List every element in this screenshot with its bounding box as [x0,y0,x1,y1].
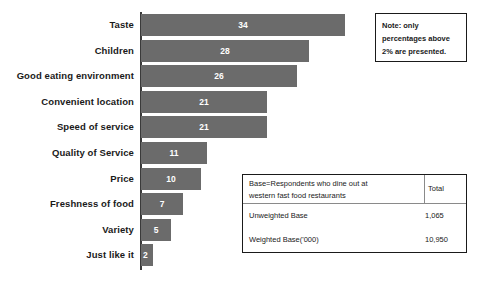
base-table-column-divider [424,175,425,203]
base-table-row-value: 10,950 [425,235,448,244]
category-label: Quality of Service [0,141,134,165]
bar-value-label: 21 [141,116,267,138]
bar-value-label: 21 [141,91,267,113]
category-label: Children [0,39,134,63]
bar-value-label: 28 [141,40,309,62]
category-label: Freshness of food [0,192,134,216]
category-label: Just like it [0,243,134,267]
bar-row: Speed of service21 [0,115,484,139]
bar-value-label: 7 [141,193,183,215]
bar-row: Good eating environment26 [0,64,484,88]
table-row: Weighted Base('000) 10,950 [243,228,466,252]
bar-row: Quality of Service11 [0,141,484,165]
note-line: 2% are presented. [382,45,461,58]
base-table: Base=Respondents who dine out at western… [242,174,467,253]
base-table-row-value: 1,065 [425,211,444,220]
bar-value-label: 5 [141,219,171,241]
note-box: Note: only percentages above 2% are pres… [375,13,467,62]
note-line: percentages above [382,32,461,45]
category-label: Good eating environment [0,64,134,88]
category-label: Speed of service [0,115,134,139]
base-table-row-label: Unweighted Base [249,211,308,220]
bar-value-label: 26 [141,65,297,87]
table-row: Unweighted Base 1,065 [243,204,466,228]
bar-value-label: 11 [141,142,207,164]
chart-figure: Taste34Children28Good eating environment… [0,0,484,281]
base-table-header-line2: western fast food restaurants [249,191,346,200]
category-label: Convenient location [0,90,134,114]
bar-value-label: 10 [141,168,201,190]
category-label: Variety [0,218,134,242]
base-table-header: Base=Respondents who dine out at western… [243,175,466,204]
category-label: Price [0,167,134,191]
base-table-header-label: Base=Respondents who dine out at western… [249,178,417,201]
note-line: Note: only [382,19,461,32]
bar-value-label: 2 [141,244,155,266]
category-label: Taste [0,13,134,37]
bar-value-label: 34 [141,14,345,36]
base-table-row-label: Weighted Base('000) [249,235,319,244]
bar-row: Convenient location21 [0,90,484,114]
base-table-header-line1: Base=Respondents who dine out at [249,179,368,188]
base-table-total-header: Total [428,184,444,193]
